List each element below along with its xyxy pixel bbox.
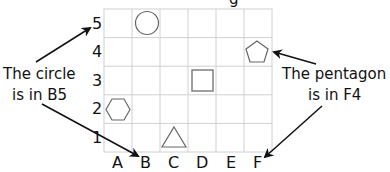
col-label-B: B — [140, 153, 151, 172]
arrow-to-column-B-icon — [42, 104, 138, 156]
col-label-F: F — [253, 153, 262, 172]
row-label-1: 1 — [92, 128, 102, 147]
row-label-2: 2 — [92, 99, 102, 118]
circle-shape-B5 — [136, 12, 159, 35]
coordinate-grid — [104, 9, 272, 152]
title-partial: g — [229, 0, 239, 8]
col-label-D: D — [196, 153, 208, 172]
pentagon-shape-F4 — [246, 41, 268, 62]
arrow-to-pentagon-icon — [274, 52, 316, 64]
left-annotation-line1: The circle — [2, 65, 76, 83]
col-label-E: E — [226, 153, 236, 172]
left-annotation-line2: is in B5 — [12, 86, 67, 104]
row-label-5: 5 — [92, 14, 102, 33]
right-annotation-line1: The pentagon — [281, 65, 386, 83]
row-label-4: 4 — [92, 42, 102, 61]
col-label-C: C — [168, 153, 179, 172]
square-shape-D3 — [192, 70, 213, 91]
right-annotation-line2: is in F4 — [308, 86, 361, 104]
arrow-to-column-F-icon — [265, 106, 322, 157]
hexagon-shape-A2 — [106, 99, 130, 120]
arrow-to-row-5-icon — [36, 28, 90, 62]
triangle-shape-C1 — [162, 127, 186, 147]
grid-diagram: g 5 4 3 2 1 A B C D E F The circle is in… — [0, 0, 390, 172]
col-label-A: A — [112, 153, 123, 172]
row-label-3: 3 — [92, 71, 102, 90]
